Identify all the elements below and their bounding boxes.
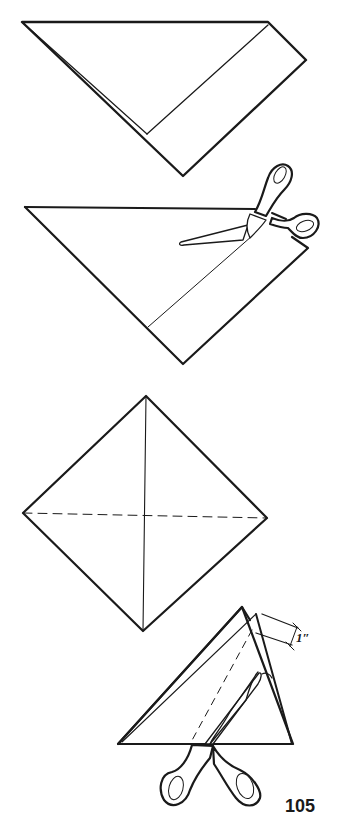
book-page: 1″ 105: [0, 0, 340, 838]
dimension-label: 1″: [296, 630, 310, 646]
scissors-cutting-icon: [0, 0, 340, 838]
page-number: 105: [285, 796, 315, 817]
